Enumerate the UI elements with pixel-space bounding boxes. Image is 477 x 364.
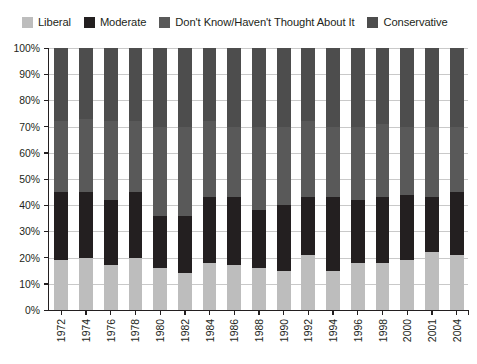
bar-segment-1996-s2 [351,127,365,200]
bar-1988 [252,48,266,310]
x-tick-label-1972: 1972 [56,319,67,342]
bar-segment-1974-s3 [79,48,93,119]
bar-segment-1988-s1 [252,210,266,268]
y-tick-mark-40 [44,205,49,206]
bar-segment-1982-s0 [178,273,192,310]
bar-segment-1992-s1 [301,197,315,255]
bar-segment-1976-s0 [104,265,118,310]
bar-segment-1998-s3 [376,48,390,124]
y-tick-label-50: 50% [19,174,40,185]
y-tick-mark-100 [44,48,49,49]
x-tick-mark-1980 [160,310,161,315]
legend-label-0: Liberal [38,17,71,28]
y-tick-mark-0 [44,310,49,311]
bar-segment-1986-s2 [227,127,241,198]
legend-swatch-moderate [84,17,95,28]
bar-segment-1992-s3 [301,48,315,121]
bar-2000 [400,48,414,310]
bar-segment-1984-s1 [203,197,217,263]
x-tick-mark-1996 [357,310,358,315]
bar-segment-1982-s1 [178,216,192,274]
bar-segment-1992-s2 [301,121,315,197]
x-axis-end-tick [468,310,469,315]
bar-2004 [450,48,464,310]
x-tick-mark-1994 [332,310,333,315]
chart-legend: LiberalModerateDon't Know/Haven't Though… [22,17,461,28]
y-tick-label-80: 80% [19,95,40,106]
chart-plot-area: 0%10%20%30%40%50%60%70%80%90%100% 197219… [48,48,468,311]
bar-segment-2001-s0 [425,252,439,310]
bar-segment-1978-s3 [129,48,143,121]
bar-segment-1998-s1 [376,197,390,263]
x-tick-mark-1988 [258,310,259,315]
x-tick-label-2004: 2004 [451,319,462,342]
bar-segment-1984-s0 [203,263,217,310]
x-tick-label-2000: 2000 [402,319,413,342]
bar-1982 [178,48,192,310]
bar-segment-1974-s0 [79,258,93,310]
y-tick-mark-20 [44,257,49,258]
bar-segment-1980-s0 [153,268,167,310]
y-tick-mark-30 [44,231,49,232]
bar-segment-1994-s3 [326,48,340,127]
bar-segment-2000-s0 [400,260,414,310]
bar-segment-1976-s3 [104,48,118,121]
y-tick-label-70: 70% [19,121,40,132]
legend-entry-0: Liberal [22,17,71,28]
legend-entry-3: Conservative [367,17,447,28]
bar-segment-2004-s0 [450,255,464,310]
bar-1992 [301,48,315,310]
bar-segment-1996-s3 [351,48,365,127]
bar-segment-1972-s1 [54,192,68,260]
bar-1998 [376,48,390,310]
bar-segment-1984-s2 [203,121,217,197]
x-tick-label-1992: 1992 [303,319,314,342]
y-tick-label-100: 100% [13,43,40,54]
bar-segment-1988-s2 [252,127,266,211]
bar-segment-1988-s0 [252,268,266,310]
bar-segment-1996-s1 [351,200,365,263]
y-tick-mark-80 [44,100,49,101]
legend-swatch-liberal [22,17,33,28]
bar-1978 [129,48,143,310]
bar-segment-1978-s1 [129,192,143,258]
y-tick-label-0: 0% [25,305,40,316]
legend-entry-1: Moderate [84,17,146,28]
x-tick-label-2001: 2001 [426,319,437,342]
x-tick-label-1984: 1984 [204,319,215,342]
legend-label-1: Moderate [100,17,146,28]
bar-1996 [351,48,365,310]
bar-segment-2004-s2 [450,127,464,193]
bar-segment-2004-s3 [450,48,464,127]
bar-segment-1990-s1 [277,205,291,271]
bar-segment-1972-s2 [54,121,68,192]
y-tick-label-30: 30% [19,226,40,237]
bar-segment-1992-s0 [301,255,315,310]
bar-segment-1974-s1 [79,192,93,258]
bar-1980 [153,48,167,310]
x-tick-label-1980: 1980 [155,319,166,342]
x-tick-label-1976: 1976 [105,319,116,342]
bar-segment-1998-s2 [376,124,390,197]
y-tick-label-60: 60% [19,147,40,158]
y-tick-mark-10 [44,283,49,284]
bar-segment-1980-s3 [153,48,167,127]
bar-segment-1972-s0 [54,260,68,310]
bar-1976 [104,48,118,310]
legend-swatch-dont-know [159,17,170,28]
bar-segment-2001-s1 [425,197,439,252]
bar-segment-1986-s0 [227,265,241,310]
bar-segment-1982-s3 [178,48,192,127]
bar-segment-2000-s2 [400,127,414,195]
bar-segment-1994-s1 [326,197,340,270]
bar-segment-1974-s2 [79,119,93,192]
bar-segment-1976-s2 [104,121,118,200]
x-tick-mark-1992 [308,310,309,315]
bar-segment-1976-s1 [104,200,118,266]
y-tick-mark-50 [44,179,49,180]
y-tick-label-10: 10% [19,278,40,289]
x-tick-label-1978: 1978 [130,319,141,342]
legend-label-2: Don't Know/Haven't Thought About It [175,17,354,28]
bar-segment-1986-s3 [227,48,241,127]
x-tick-label-1974: 1974 [81,319,92,342]
